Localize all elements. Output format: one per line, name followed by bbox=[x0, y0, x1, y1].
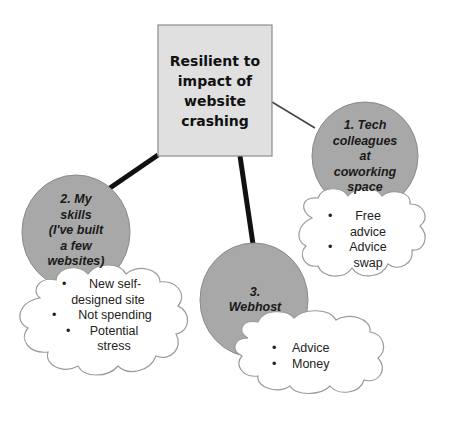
benefit-item: • Not spending bbox=[52, 308, 164, 324]
node-label-line: at bbox=[333, 149, 398, 165]
node-label-line: coworking bbox=[333, 165, 398, 181]
central-goal-label: Resilient to impact of website crashing bbox=[158, 25, 272, 156]
central-line: website bbox=[170, 91, 260, 111]
node-1-label: 1. Tech colleagues at coworking space bbox=[318, 115, 412, 199]
benefit-line: advice bbox=[328, 225, 408, 241]
central-line: impact of bbox=[170, 71, 260, 91]
cloud-3-benefits: • Advice • Money bbox=[272, 341, 342, 372]
connector-node-1 bbox=[272, 102, 315, 128]
cloud-1-benefits: • Free advice • Advice swap bbox=[328, 209, 408, 271]
benefit-item: • Advice swap bbox=[328, 240, 408, 271]
bullet-icon: • bbox=[328, 240, 332, 256]
node-label-line: 1. Tech bbox=[333, 118, 398, 134]
node-label-line: websites) bbox=[48, 254, 105, 270]
node-2-label: 2. My skills (I've built a few websites) bbox=[28, 190, 124, 272]
benefit-line: Advice bbox=[292, 341, 342, 357]
bullet-icon: • bbox=[52, 308, 56, 324]
node-label-line: (I've built bbox=[48, 223, 105, 239]
bullet-icon: • bbox=[272, 357, 276, 373]
bullet-icon: • bbox=[66, 324, 70, 340]
node-label-line: 3. bbox=[229, 285, 282, 301]
node-label-line: 2. My bbox=[48, 192, 105, 208]
benefit-item: • Money bbox=[272, 357, 342, 373]
node-label-line: skills bbox=[48, 208, 105, 224]
benefit-line: New self- bbox=[52, 277, 164, 293]
bullet-icon: • bbox=[272, 341, 276, 357]
benefit-line: Free bbox=[328, 209, 408, 225]
benefit-line: designed site bbox=[52, 293, 164, 309]
node-label-line: colleagues bbox=[333, 134, 398, 150]
central-line: crashing bbox=[170, 111, 260, 131]
benefit-item: • Free advice bbox=[328, 209, 408, 240]
node-3-label: 3. Webhost bbox=[210, 282, 300, 318]
benefit-line: Advice bbox=[328, 240, 408, 256]
node-label-line: Webhost bbox=[229, 300, 282, 316]
bullet-icon: • bbox=[328, 209, 332, 225]
benefit-line: Not spending bbox=[52, 308, 164, 324]
central-line: Resilient to bbox=[170, 51, 260, 71]
benefit-line: Money bbox=[292, 357, 342, 373]
benefit-line: swap bbox=[328, 256, 408, 272]
benefit-item: • Advice bbox=[272, 341, 342, 357]
cloud-2-benefits: • New self- designed site • Not spending… bbox=[52, 277, 164, 355]
node-label-line: space bbox=[333, 180, 398, 196]
node-label-line: a few bbox=[48, 239, 105, 255]
benefit-line: stress bbox=[52, 339, 164, 355]
connector-node-3 bbox=[240, 156, 253, 244]
benefit-item: • New self- designed site bbox=[52, 277, 164, 308]
bullet-icon: • bbox=[62, 277, 66, 293]
connector-node-2 bbox=[107, 155, 158, 190]
benefit-item: • Potential stress bbox=[52, 324, 164, 355]
